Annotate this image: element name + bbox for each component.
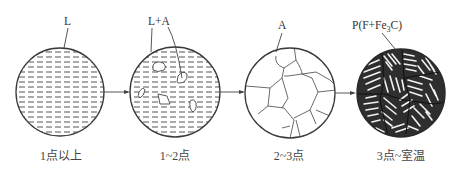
stage-2-liquid-austenite-circle (125, 27, 225, 137)
caption-stage-4: 3点~室温 (377, 146, 426, 164)
label-liquid-austenite: L+A (148, 15, 170, 27)
caption-stage-2: 1~2点 (160, 146, 191, 164)
arrow-right-icon (335, 91, 356, 95)
label-pearlite: P(F+Fe3C) (352, 19, 402, 34)
label-liquid: L (64, 15, 71, 27)
caption-stage-3: 2~3点 (274, 146, 305, 164)
arrow-right-icon (104, 90, 130, 94)
stage-1-liquid-circle (10, 28, 110, 136)
caption-stage-1: 1点以上 (40, 146, 82, 164)
label-austenite: A (278, 19, 286, 31)
stage-3-austenite-grains-circle (245, 33, 336, 138)
arrow-right-icon (220, 90, 245, 94)
stage-4-pearlite-circle (356, 33, 448, 138)
